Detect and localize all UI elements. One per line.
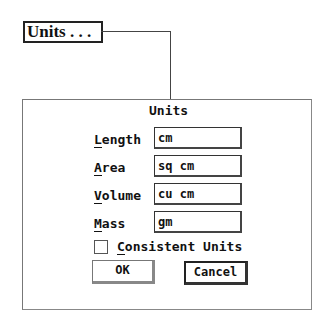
label-text: ength — [102, 132, 141, 147]
volume-field[interactable]: cu cm — [154, 183, 242, 205]
mnemonic: M — [94, 216, 102, 232]
label-text: olume — [102, 188, 141, 203]
connector-line — [170, 31, 171, 100]
label-text: rea — [102, 160, 125, 175]
mass-field[interactable]: gm — [154, 211, 242, 233]
area-label: Area — [94, 160, 125, 176]
units-button[interactable]: Units . . . — [23, 21, 103, 43]
connector-line — [101, 31, 171, 32]
mnemonic: C — [117, 239, 125, 255]
label-text: ass — [102, 216, 125, 231]
mnemonic: A — [94, 160, 102, 176]
area-field[interactable]: sq cm — [154, 155, 242, 177]
mass-label: Mass — [94, 216, 125, 232]
ok-button[interactable]: OK — [92, 260, 155, 284]
dialog-title: Units — [149, 103, 188, 118]
consistent-units-label[interactable]: Consistent Units — [117, 239, 242, 255]
mnemonic: L — [94, 132, 102, 148]
length-field[interactable]: cm — [154, 127, 242, 149]
label-text: onsistent Units — [125, 239, 242, 254]
volume-label: Volume — [94, 188, 141, 204]
length-label: Length — [94, 132, 141, 148]
consistent-units-checkbox[interactable] — [94, 240, 108, 254]
cancel-button[interactable]: Cancel — [184, 261, 248, 285]
mnemonic: V — [94, 188, 102, 204]
